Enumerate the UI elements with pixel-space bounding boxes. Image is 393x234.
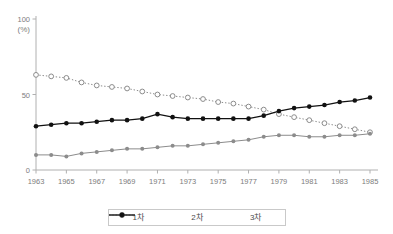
data-point <box>353 133 357 137</box>
data-point <box>322 103 327 108</box>
x-axis-tick-label: 1965 <box>58 177 75 186</box>
x-axis-tick-label: 1983 <box>331 177 348 186</box>
data-point <box>64 75 69 80</box>
data-point <box>201 142 205 146</box>
chart-plot-area: 050100(%)1963196519671969197119731975197… <box>0 0 393 234</box>
series-1차 <box>34 72 373 134</box>
y-axis-tick-label: 100 <box>17 15 30 24</box>
data-point <box>64 121 69 126</box>
data-point <box>337 100 342 105</box>
data-point <box>246 116 251 121</box>
data-point <box>125 147 129 151</box>
data-point <box>292 115 297 120</box>
data-point <box>307 118 312 123</box>
chart-legend: 1차 2차 3차 <box>108 209 286 226</box>
x-axis-tick-label: 1969 <box>119 177 136 186</box>
data-point <box>292 133 296 137</box>
data-point <box>216 100 221 105</box>
data-point <box>94 119 99 124</box>
data-point <box>338 133 342 137</box>
x-axis-tick-label: 1967 <box>88 177 105 186</box>
data-point <box>247 138 251 142</box>
data-point <box>170 115 175 120</box>
data-point <box>79 80 84 85</box>
data-point <box>140 89 145 94</box>
data-point <box>277 109 282 114</box>
data-point <box>125 86 130 91</box>
data-point <box>337 124 342 129</box>
data-point <box>80 151 84 155</box>
data-point <box>95 150 99 154</box>
data-point <box>231 116 236 121</box>
series-line-1차 <box>36 75 370 132</box>
legend-symbol-solid-black-diamond <box>109 210 135 220</box>
data-point <box>34 153 38 157</box>
data-point <box>246 104 251 109</box>
x-axis-tick-label: 1985 <box>362 177 379 186</box>
chart-container: 050100(%)1963196519671969197119731975197… <box>0 0 393 234</box>
data-point <box>262 135 266 139</box>
data-point <box>368 132 372 136</box>
data-point <box>49 74 54 79</box>
data-point <box>94 83 99 88</box>
data-point <box>110 148 114 152</box>
data-point <box>353 98 358 103</box>
data-point <box>155 112 160 117</box>
data-point <box>322 135 326 139</box>
data-point <box>155 92 160 97</box>
data-point <box>307 104 312 109</box>
data-point <box>110 85 115 90</box>
data-point <box>201 116 206 121</box>
data-point <box>49 153 53 157</box>
legend-item-3cha[interactable]: 3차 <box>250 214 261 222</box>
legend-label-3cha: 3차 <box>250 214 261 222</box>
series-2차 <box>34 132 372 159</box>
data-point <box>186 144 190 148</box>
data-point <box>307 135 311 139</box>
legend-label-2cha: 2차 <box>191 214 202 222</box>
data-point <box>79 121 84 126</box>
data-point <box>140 116 145 121</box>
data-point <box>216 141 220 145</box>
data-point <box>368 95 373 100</box>
data-point <box>125 118 130 123</box>
x-axis-tick-label: 1981 <box>301 177 318 186</box>
data-point <box>292 106 297 111</box>
x-axis-tick-label: 1971 <box>149 177 166 186</box>
data-point <box>170 94 175 99</box>
data-point <box>49 122 54 127</box>
data-point <box>352 127 357 132</box>
data-point <box>261 113 266 118</box>
x-axis-tick-label: 1963 <box>28 177 45 186</box>
x-axis-tick-label: 1979 <box>271 177 288 186</box>
data-point <box>185 95 190 100</box>
y-axis-tick-label: 0 <box>26 166 30 175</box>
data-point <box>110 118 115 123</box>
x-axis-tick-label: 1975 <box>210 177 227 186</box>
data-point <box>201 97 206 102</box>
x-axis-tick-label: 1973 <box>179 177 196 186</box>
y-axis-unit-label: (%) <box>18 25 31 34</box>
data-point <box>186 116 191 121</box>
data-point <box>261 107 266 112</box>
data-point <box>231 139 235 143</box>
data-point <box>140 147 144 151</box>
y-axis-tick-label: 50 <box>22 91 30 100</box>
data-point <box>64 154 68 158</box>
data-point <box>322 121 327 126</box>
data-point <box>155 145 159 149</box>
data-point <box>34 72 39 77</box>
data-point <box>171 144 175 148</box>
data-point <box>34 124 39 129</box>
data-point <box>277 133 281 137</box>
legend-item-2cha[interactable]: 2차 <box>191 214 202 222</box>
data-point <box>216 116 221 121</box>
x-axis-tick-label: 1977 <box>240 177 257 186</box>
data-point <box>231 101 236 106</box>
